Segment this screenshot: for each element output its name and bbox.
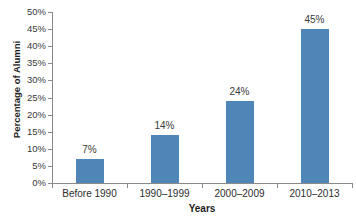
bar[interactable] xyxy=(76,159,104,183)
y-tick-label: 5% xyxy=(12,161,46,171)
y-tick-label: 40% xyxy=(12,41,46,51)
bar-chart: Businesses After Graduation Percentage o… xyxy=(0,0,356,221)
y-tick-mark xyxy=(48,149,52,150)
y-tick-label: 15% xyxy=(12,127,46,137)
y-tick-label: 10% xyxy=(12,144,46,154)
y-tick-label: 25% xyxy=(12,93,46,103)
y-tick-mark xyxy=(48,132,52,133)
y-tick-label: 35% xyxy=(12,58,46,68)
plot-area: 0%5%10%15%20%25%30%35%40%45%50% 7%14%24%… xyxy=(52,12,352,183)
bar[interactable] xyxy=(151,135,179,183)
y-tick-mark xyxy=(48,46,52,47)
bar[interactable] xyxy=(226,101,254,183)
y-tick-label: 20% xyxy=(12,110,46,120)
x-category-label: 2010–2013 xyxy=(270,188,356,199)
y-tick-mark xyxy=(48,115,52,116)
y-tick-label: 50% xyxy=(12,7,46,17)
bar-value-label: 14% xyxy=(142,121,188,131)
y-tick-mark xyxy=(48,80,52,81)
bar-value-label: 7% xyxy=(67,145,113,155)
y-tick-label: 0% xyxy=(12,178,46,188)
y-tick-label: 45% xyxy=(12,24,46,34)
y-tick-label: 30% xyxy=(12,75,46,85)
y-axis-line xyxy=(52,12,53,184)
y-tick-mark xyxy=(48,12,52,13)
y-tick-mark xyxy=(48,166,52,167)
bar-value-label: 24% xyxy=(217,87,263,97)
y-tick-mark xyxy=(48,63,52,64)
bar[interactable] xyxy=(301,29,329,183)
x-axis-title: Years xyxy=(52,203,352,214)
y-tick-mark xyxy=(48,98,52,99)
bar-value-label: 45% xyxy=(292,15,338,25)
chart-title: Businesses After Graduation xyxy=(0,0,356,3)
y-tick-mark xyxy=(48,29,52,30)
